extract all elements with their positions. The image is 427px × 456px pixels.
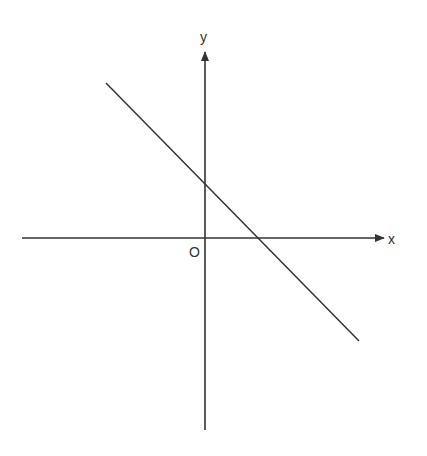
x-axis-label: x <box>388 231 395 247</box>
origin-label: O <box>189 244 200 260</box>
sloped-line <box>106 83 359 341</box>
y-axis-label: y <box>200 29 207 45</box>
coordinate-diagram: y x O <box>0 0 427 456</box>
